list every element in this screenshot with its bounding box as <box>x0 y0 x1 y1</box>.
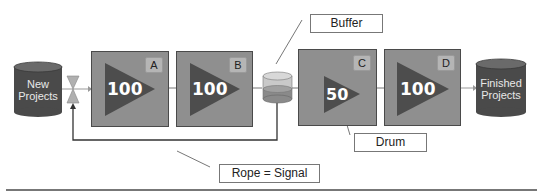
finished-projects-label-line2: Projects <box>476 89 526 101</box>
station-b-capacity: 100 <box>192 79 228 99</box>
new-projects-label-line2: Projects <box>14 90 62 102</box>
buffer-cylinder-icon <box>263 72 292 103</box>
station-d[interactable]: D 100 <box>384 49 461 126</box>
rope-callout-line <box>177 151 210 167</box>
arrowhead-icon <box>70 103 76 109</box>
finished-projects-label-line1: Finished <box>476 77 526 89</box>
station-c-capacity: 50 <box>326 85 348 104</box>
drum-callout: Drum <box>354 133 427 152</box>
new-projects-label-line1: New <box>14 78 62 90</box>
station-b-tag: B <box>229 57 247 73</box>
finished-projects-label: Finished Projects <box>476 77 526 101</box>
station-d-capacity: 100 <box>400 79 436 99</box>
station-a-capacity: 100 <box>107 79 143 99</box>
new-projects-label: New Projects <box>14 78 62 102</box>
buffer-callout: Buffer <box>310 14 383 33</box>
bottom-divider <box>6 189 537 191</box>
station-a[interactable]: A 100 <box>91 51 169 127</box>
station-d-tag: D <box>437 55 455 71</box>
rope-callout: Rope = Signal <box>219 164 320 183</box>
station-a-tag: A <box>145 57 163 73</box>
station-c[interactable]: C 50 <box>298 49 377 126</box>
station-c-tag: C <box>353 55 371 71</box>
station-b[interactable]: B 100 <box>176 51 253 127</box>
